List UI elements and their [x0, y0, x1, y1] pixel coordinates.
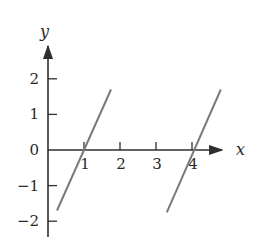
x-tick-label: 3	[152, 155, 162, 173]
x-ticks: 1234	[80, 142, 198, 173]
series-lines	[57, 89, 221, 212]
x-tick-label: 4	[188, 155, 198, 173]
y-tick-label: −1	[17, 177, 39, 195]
x-axis-label: x	[236, 140, 245, 159]
x-tick-label: 2	[116, 155, 126, 173]
y-tick-label: −2	[17, 212, 39, 230]
y-tick-label: 0	[29, 141, 39, 159]
segment-2-line	[167, 89, 221, 212]
y-axis-label: y	[39, 22, 50, 41]
y-tick-label: 1	[29, 105, 39, 123]
y-tick-label: 2	[29, 70, 39, 88]
chart: x y 1234 210−1−2	[0, 0, 259, 248]
